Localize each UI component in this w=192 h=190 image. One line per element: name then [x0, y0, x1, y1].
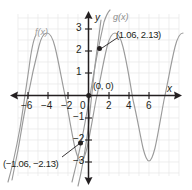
y-tick-label--2: −2: [73, 133, 84, 144]
lower-point-label: (−1.06, −2.13): [3, 158, 58, 169]
x-tick-label-6: 6: [146, 100, 151, 111]
x-axis-right-arrow: [174, 92, 182, 100]
x-tick-label--6: −6: [21, 100, 32, 111]
coordinate-graph-figure: −6 −4 −2 0 2 4 6 3 2 1 −1 −2 −3 y x f(x)…: [0, 0, 192, 190]
y-tick-label-2: 2: [76, 44, 81, 55]
y-tick-label--1: −1: [73, 111, 84, 122]
curve-label-f: f(x): [35, 27, 48, 37]
x-tick-label-4: 4: [126, 100, 131, 111]
x-tick-label--2: −2: [61, 100, 72, 111]
x-axis-name: x: [167, 83, 172, 94]
origin-point-label: (0, 0): [93, 80, 113, 91]
upper-point-label: (1.06, 2.13): [116, 29, 161, 40]
y-axis-name: y: [95, 12, 100, 23]
x-tick-label-2: 2: [106, 100, 111, 111]
upper-point-dot: [97, 46, 102, 51]
y-tick-label--3: −3: [73, 155, 84, 166]
origin-dot: [86, 93, 91, 98]
curve-label-g: g(x): [113, 12, 129, 22]
y-axis-up-arrow: [85, 11, 93, 19]
x-axis-left-arrow: [10, 92, 18, 100]
x-tick-label-0: 0: [80, 100, 85, 111]
y-axis-down-arrow: [85, 177, 93, 185]
y-tick-label-1: 1: [76, 66, 81, 77]
x-tick-label--4: −4: [41, 100, 52, 111]
y-tick-label-3: 3: [76, 22, 81, 33]
